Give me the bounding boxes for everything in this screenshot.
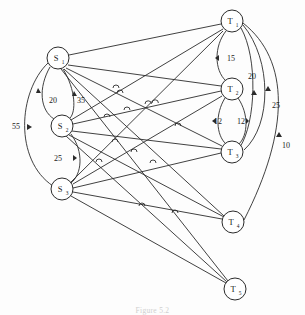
node-t5-subscript: 5 [239,290,242,296]
bipartite-edge-group [61,24,228,283]
node-t2[interactable]: T 2 [221,78,243,100]
node-t3[interactable]: T 3 [221,141,243,163]
edge-t1-t4 [243,25,265,150]
node-t3-label: T [227,147,233,157]
node-s1[interactable]: S 1 [47,47,69,69]
crossing-hop [131,149,137,152]
node-s3[interactable]: S 3 [51,178,73,200]
edge-label-t2-t3-right: 12 [237,117,245,126]
arrowhead [27,124,32,130]
node-t1[interactable]: T 1 [221,10,243,32]
crossing-hop [96,159,102,162]
edge-label-t1-t3: 20 [248,72,256,81]
arrowhead [36,88,41,93]
crossing-hop [152,100,158,103]
node-t2-subscript: 2 [236,90,239,96]
edge-label-s1-s2-left: 20 [49,96,57,105]
edge-label-t1-t4: 25 [272,101,280,110]
arrowhead-group [27,55,282,161]
arrowhead [265,86,271,91]
edge-s2-t4 [69,135,224,217]
node-t4[interactable]: T 4 [222,211,244,233]
edge-s1-t1 [69,24,221,55]
edge-label-t1-t5: 10 [282,141,290,150]
node-t1-subscript: 1 [236,22,239,28]
edge-label-t2-t3-left: 12 [214,117,222,126]
edge-s1-t3 [66,68,222,146]
edge-label-t1-t2: 15 [227,54,235,63]
edge-s1-s2-left [42,67,54,119]
node-s3-label: S [58,184,63,194]
arrowhead [246,118,249,124]
network-diagram: S 1 S 2 S 3 T 1 T 2 T 3 [0,0,305,315]
edge-s2-t5 [66,136,227,282]
crossing-hop [113,85,119,88]
edge-s2-t3 [72,131,221,149]
node-s1-label: S [54,53,59,63]
edge-s1-s3-far-left [25,63,53,186]
node-t4-label: T [228,217,234,227]
edge-label-s1-s2-right: 35 [77,96,85,105]
edge-label-s1-s3: 55 [12,122,20,131]
node-t5-label: T [230,284,236,294]
node-t4-subscript: 4 [237,223,240,229]
arrowhead [276,132,282,137]
edge-s2-t2 [73,91,221,124]
node-t3-subscript: 3 [236,153,239,159]
arrowhead [251,90,257,95]
node-t2-label: T [227,84,233,94]
arrowhead [73,155,77,161]
node-s2-subscript: 2 [66,127,69,133]
edge-label-s2-s3: 25 [54,154,62,163]
node-s1-subscript: 1 [62,59,65,65]
edge-s3-t5 [71,196,226,283]
figure-container: S 1 S 2 S 3 T 1 T 2 T 3 [0,0,305,315]
node-s2[interactable]: S 2 [51,115,73,137]
node-s3-subscript: 3 [66,190,69,196]
crossing-hop [150,160,156,163]
node-s2-label: S [58,121,63,131]
node-t1-label: T [227,16,233,26]
crossing-hop [124,107,130,110]
figure-caption: Figure 5.2 [0,306,305,315]
edge-s3-t4 [73,192,222,219]
node-t5[interactable]: T 5 [224,278,246,300]
edge-label-group: 20 35 55 25 15 20 12 12 25 10 [12,54,290,163]
